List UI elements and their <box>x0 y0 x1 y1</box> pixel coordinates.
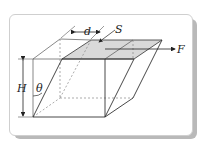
shear-diagram: H θ d S F <box>0 0 207 147</box>
label-H: H <box>16 82 27 95</box>
label-theta: θ <box>36 82 43 95</box>
label-d: d <box>84 25 91 38</box>
top-face-S <box>62 40 162 59</box>
label-F: F <box>176 43 185 56</box>
label-S: S <box>115 23 123 36</box>
